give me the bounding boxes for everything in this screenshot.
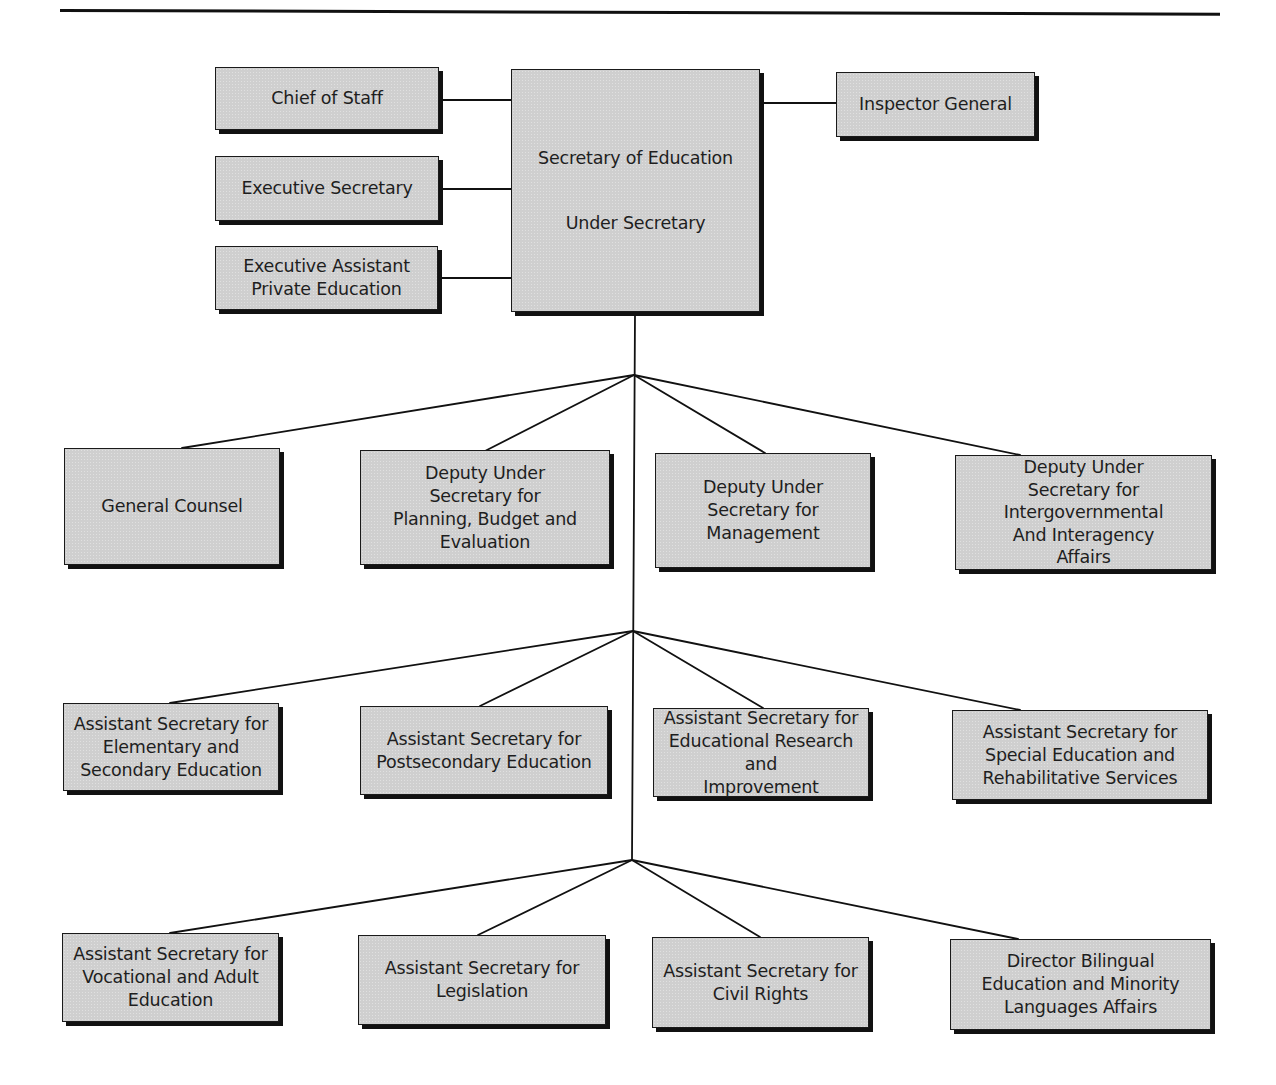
elementary-secondary-education-box: Assistant Secretary for Elementary and S… [63,703,279,791]
under-secretary-title: Under Secretary [566,212,706,235]
spine-line [632,313,635,860]
box-label: Executive Assistant Private Education [243,255,410,301]
civil-rights-box: Assistant Secretary for Civil Rights [652,937,869,1028]
box-label: Inspector General [859,93,1012,116]
bilingual-education-minority-languages-box: Director Bilingual Education and Minorit… [950,939,1211,1030]
vocational-adult-education-box: Assistant Secretary for Vocational and A… [62,933,279,1022]
box-label: General Counsel [101,495,242,518]
box-label: Assistant Secretary for Elementary and S… [74,713,269,782]
box-label: Executive Secretary [241,177,412,200]
deputy-management-box: Deputy Under Secretary for Management [655,453,871,568]
inspector-general-box: Inspector General [836,72,1035,137]
special-education-rehabilitative-box: Assistant Secretary for Special Educatio… [952,710,1208,800]
executive-secretary-box: Executive Secretary [215,156,439,221]
deputy-intergovernmental-interagency-box: Deputy Under Secretary for Intergovernme… [955,455,1212,570]
legislation-box: Assistant Secretary for Legislation [358,935,606,1025]
box-label: Deputy Under Secretary for Planning, Bud… [393,462,577,554]
box-label: Director Bilingual Education and Minorit… [982,950,1180,1019]
box-label: Deputy Under Secretary for Intergovernme… [1004,456,1164,569]
deputy-planning-budget-evaluation-box: Deputy Under Secretary for Planning, Bud… [360,450,610,565]
general-counsel-box: General Counsel [64,448,280,565]
box-label: Assistant Secretary for Special Educatio… [983,721,1178,790]
box-label: Assistant Secretary for Postsecondary Ed… [376,728,591,774]
secretary-title: Secretary of Education [538,147,733,170]
box-label: Assistant Secretary for Educational Rese… [660,707,862,799]
box-label: Deputy Under Secretary for Management [703,476,823,545]
chief-of-staff-box: Chief of Staff [215,67,439,130]
box-label: Assistant Secretary for Civil Rights [663,960,858,1006]
org-chart: Secretary of Education Under Secretary C… [0,0,1276,1085]
postsecondary-education-box: Assistant Secretary for Postsecondary Ed… [360,706,608,795]
executive-assistant-private-education-box: Executive Assistant Private Education [215,246,438,310]
educational-research-improvement-box: Assistant Secretary for Educational Rese… [653,708,869,797]
box-label: Assistant Secretary for Legislation [385,957,580,1003]
box-label: Assistant Secretary for Vocational and A… [73,943,268,1012]
secretary-of-education-box: Secretary of Education Under Secretary [511,69,760,312]
box-label: Chief of Staff [271,87,382,110]
